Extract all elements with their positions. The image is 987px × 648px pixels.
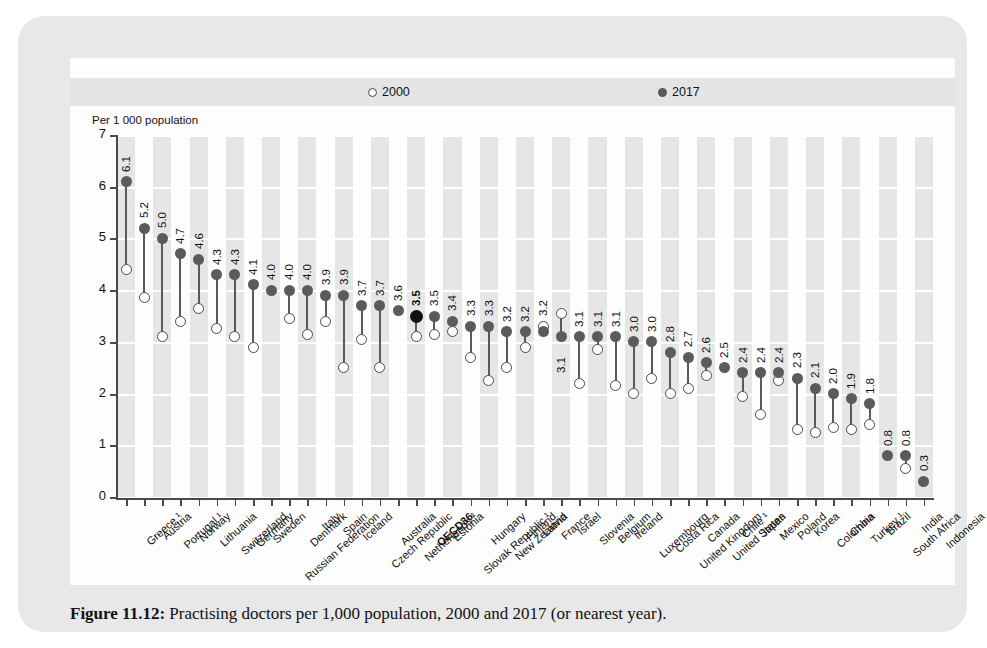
connector-stem <box>179 254 181 321</box>
y-axis-tick <box>110 187 117 189</box>
data-point-2017 <box>520 326 531 337</box>
figure-caption: Figure 11.12: Practising doctors per 1,0… <box>70 604 960 624</box>
data-value-label: 3.0 <box>646 316 658 332</box>
column-band <box>770 135 788 497</box>
data-point-2017 <box>193 254 204 265</box>
data-value-label: 3.1 <box>592 311 604 327</box>
filled-circle-icon <box>658 88 667 97</box>
x-axis-tick <box>888 500 890 506</box>
data-point-2000 <box>683 383 694 394</box>
x-axis-tick <box>743 500 745 506</box>
x-axis-tick <box>706 500 708 506</box>
data-value-label: 3.7 <box>374 280 386 296</box>
data-value-label: 4.3 <box>211 249 223 265</box>
connector-stem <box>198 259 200 308</box>
data-value-label: 3.1 <box>555 357 567 373</box>
data-value-label: 2.8 <box>664 326 676 342</box>
data-value-label: 3.6 <box>392 285 404 301</box>
y-axis-tick <box>110 135 117 137</box>
gridline <box>117 238 933 240</box>
connector-stem <box>125 182 127 270</box>
y-axis-title: Per 1 000 population <box>92 114 198 126</box>
connector-stem <box>488 326 490 380</box>
data-point-2017 <box>447 316 458 327</box>
data-value-label: 3.3 <box>483 300 495 316</box>
data-point-2000 <box>175 316 186 327</box>
x-axis-tick <box>380 500 382 506</box>
y-axis-tick-label: 3 <box>82 333 106 348</box>
data-point-2000 <box>193 303 204 314</box>
data-value-label: 4.6 <box>193 233 205 249</box>
x-axis-tick <box>362 500 364 506</box>
data-point-2017 <box>792 373 803 384</box>
data-value-label: 2.6 <box>700 337 712 353</box>
column-band <box>661 135 679 497</box>
y-axis-tick-label: 5 <box>82 229 106 244</box>
x-axis-tick <box>906 500 908 506</box>
y-axis-tick <box>110 342 117 344</box>
data-point-2017 <box>538 326 549 337</box>
data-value-label: 4.0 <box>265 264 277 280</box>
x-axis-tick <box>471 500 473 506</box>
data-value-label: 2.5 <box>718 342 730 358</box>
legend-item-2000: 2000 <box>368 82 410 102</box>
x-axis-tick <box>253 500 255 506</box>
data-point-2017 <box>157 233 168 244</box>
x-axis-tick <box>797 500 799 506</box>
y-axis-tick-label: 0 <box>82 488 106 503</box>
data-point-2000 <box>447 326 458 337</box>
y-axis-tick-label: 2 <box>82 385 106 400</box>
data-point-2000 <box>556 308 567 319</box>
connector-stem <box>796 378 798 430</box>
x-axis-tick <box>489 500 491 506</box>
chart-legend: 2000 2017 <box>70 78 955 106</box>
data-point-2017 <box>483 321 494 332</box>
x-axis-tick <box>144 500 146 506</box>
y-axis-tick <box>110 290 117 292</box>
data-value-label: 2.4 <box>737 347 749 363</box>
x-axis-tick <box>326 500 328 506</box>
caption-label: Figure 11.12: <box>70 604 165 623</box>
legend-item-2017: 2017 <box>658 82 700 102</box>
data-value-label: 4.3 <box>229 249 241 265</box>
column-band <box>915 135 933 497</box>
data-value-label: 3.2 <box>501 306 513 322</box>
x-axis-tick <box>670 500 672 506</box>
data-value-label: 3.1 <box>573 311 585 327</box>
x-axis-tick <box>815 500 817 506</box>
x-axis-tick <box>851 500 853 506</box>
data-value-label: 3.9 <box>338 269 350 285</box>
data-point-2017 <box>284 285 295 296</box>
data-point-2017 <box>665 347 676 358</box>
x-axis-tick <box>507 500 509 506</box>
data-point-2000 <box>411 331 422 342</box>
data-point-2000 <box>284 313 295 324</box>
chart-card: 2000 2017 Per 1 000 population 6.15.25.0… <box>70 58 955 585</box>
data-point-2000 <box>792 424 803 435</box>
data-point-2017 <box>410 310 423 323</box>
data-point-2000 <box>465 352 476 363</box>
data-point-2000 <box>121 264 132 275</box>
data-value-label: 2.0 <box>827 368 839 384</box>
x-axis-tick <box>652 500 654 506</box>
data-value-label: 2.7 <box>682 331 694 347</box>
legend-label-2000: 2000 <box>382 82 410 102</box>
x-axis-tick <box>779 500 781 506</box>
x-axis-tick <box>924 500 926 506</box>
column-band <box>262 135 280 497</box>
data-value-label: 3.5 <box>428 290 440 306</box>
x-axis-tick <box>289 500 291 506</box>
data-point-2017 <box>429 311 440 322</box>
data-point-2017 <box>810 383 821 394</box>
data-value-label: 1.8 <box>864 378 876 394</box>
data-value-label: 3.4 <box>446 295 458 311</box>
data-value-label: 2.1 <box>809 362 821 378</box>
data-point-2000 <box>828 422 839 433</box>
x-axis-tick <box>616 500 618 506</box>
data-value-label: 5.2 <box>138 202 150 218</box>
data-value-label: 3.7 <box>356 280 368 296</box>
data-point-2000 <box>810 427 821 438</box>
connector-stem <box>143 228 145 298</box>
x-axis-tick <box>561 500 563 506</box>
